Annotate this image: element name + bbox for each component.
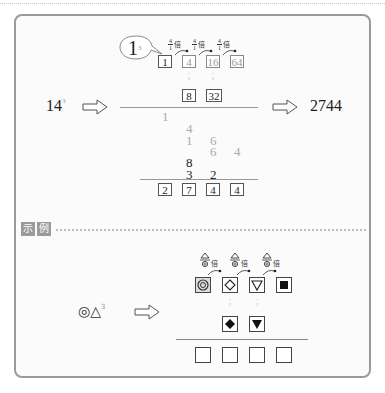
multiplier-suffix: 倍	[241, 258, 248, 268]
answer-box-empty	[249, 347, 265, 363]
power-box: 64	[230, 55, 244, 68]
example-label-char: 示	[21, 222, 35, 236]
base-number: 143	[46, 97, 66, 115]
multiplier-denominator: 1	[169, 45, 172, 51]
filled-square-icon	[277, 278, 291, 292]
right-arrow-icon	[82, 99, 108, 115]
answer-box-empty	[222, 347, 238, 363]
doubled-box: 8	[182, 89, 196, 102]
hint-base-value: 1	[128, 37, 138, 59]
result-value: 2744	[310, 97, 342, 115]
multiplier-denominator: 1	[193, 45, 196, 51]
partial-digit: 1	[186, 134, 193, 147]
example-frame	[14, 14, 371, 378]
multiplier-suffix: 倍	[273, 258, 280, 268]
base-value: 14	[46, 97, 62, 114]
multiplier-suffix: 倍	[211, 258, 218, 268]
hint-exponent: 3	[138, 44, 142, 52]
multiplier-numerator: 4	[168, 38, 173, 45]
answer-box-empty	[195, 347, 211, 363]
multiplier-fraction-1: 41	[168, 38, 173, 51]
doubling-note: ×2	[210, 71, 216, 81]
hint-base: 13	[128, 37, 142, 59]
diamond-outline-icon	[223, 278, 237, 292]
triangle-symbol: △	[90, 303, 101, 319]
double-circle-symbol: ◎	[78, 303, 90, 319]
power-box: 4	[182, 55, 196, 68]
right-arrow-icon	[134, 304, 160, 320]
partial-digit: 4	[234, 145, 241, 158]
curved-arrow-icon	[236, 268, 252, 276]
exponent: 3	[62, 97, 66, 105]
multiplier-fraction-2: 41	[192, 38, 197, 51]
exponent: 3	[101, 303, 105, 311]
doubling-note: ×2	[254, 297, 260, 307]
curved-arrow-icon	[262, 268, 278, 276]
symbol-box-square	[276, 277, 292, 293]
symbol-box-filled-diamond	[222, 316, 238, 332]
sum-line-top	[120, 107, 258, 108]
down-triangle-outline-icon	[250, 278, 264, 292]
multiplier-numerator: 4	[192, 38, 197, 45]
power-box: 16	[206, 55, 220, 68]
sum-line	[176, 339, 308, 340]
right-arrow-icon	[272, 99, 298, 115]
partial-digit: 1	[162, 110, 169, 123]
sum-line-bottom	[140, 179, 258, 180]
symbol-box-filled-down-triangle	[249, 316, 265, 332]
double-circle-icon	[196, 278, 210, 292]
filled-diamond-icon	[223, 317, 237, 331]
answer-box-empty	[276, 347, 292, 363]
example-divider	[56, 229, 366, 231]
power-box: 1	[158, 55, 172, 68]
example-label-char: 例	[37, 222, 51, 236]
top-dotted-border	[0, 3, 385, 4]
symbol-box-double-circle	[195, 277, 211, 293]
answer-digit-box: 7	[182, 183, 196, 196]
multiplier-numerator: 4	[217, 38, 222, 45]
doubling-note: ×2	[227, 297, 233, 307]
multiplier-denominator: 1	[218, 45, 221, 51]
answer-digit-box: 2	[158, 183, 172, 196]
symbol-box-down-triangle	[249, 277, 265, 293]
partial-digit: 6	[210, 145, 217, 158]
answer-digit-box: 4	[206, 183, 220, 196]
symbol-base: ◎△3	[78, 303, 105, 319]
doubling-note: ×2	[186, 71, 192, 81]
symbol-box-diamond	[222, 277, 238, 293]
doubled-box: 32	[206, 89, 222, 102]
curved-arrow-icon	[207, 268, 223, 276]
answer-digit-box: 4	[230, 183, 244, 196]
filled-down-triangle-icon	[250, 317, 264, 331]
